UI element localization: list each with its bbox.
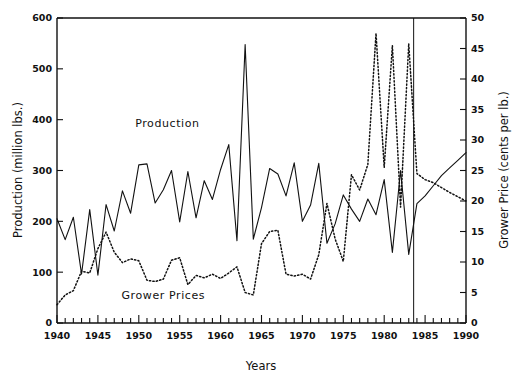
left-tick-label: 200 (32, 216, 52, 227)
x-tick-label: 1950 (126, 330, 153, 341)
right-tick-label: 30 (471, 134, 485, 145)
x-tick-label: 1940 (44, 330, 71, 341)
chart-figure: 0100200300400500600 05101520253035404550… (0, 0, 521, 380)
production-series-label: Production (135, 117, 200, 130)
x-axis-title: Years (245, 359, 276, 373)
x-tick-label: 1975 (330, 330, 356, 341)
x-tick-label: 1945 (85, 330, 111, 341)
x-tick-label: 1970 (289, 330, 316, 341)
x-tick-label: 1985 (412, 330, 438, 341)
right-tick-label: 0 (471, 317, 478, 328)
left-axis-title: Production (million lbs.) (11, 102, 25, 238)
left-tick-label: 100 (32, 267, 52, 278)
left-tick-label: 400 (32, 114, 52, 125)
left-tick-label: 300 (32, 165, 52, 176)
right-tick-label: 10 (471, 256, 485, 267)
right-tick-label: 40 (471, 73, 485, 84)
right-tick-label: 15 (471, 226, 484, 237)
left-tick-label: 0 (45, 317, 52, 328)
x-tick-label: 1965 (248, 330, 274, 341)
x-tick-label: 1980 (371, 330, 398, 341)
right-tick-label: 50 (471, 12, 485, 23)
x-tick-label: 1955 (166, 330, 192, 341)
right-tick-label: 20 (471, 195, 485, 206)
x-tick-label: 1990 (453, 330, 480, 341)
production-grower-price-chart: 0100200300400500600 05101520253035404550… (0, 0, 521, 380)
right-tick-label: 45 (471, 43, 484, 54)
left-tick-label: 500 (32, 63, 52, 74)
x-tick-label: 1960 (207, 330, 234, 341)
left-tick-label: 600 (32, 12, 52, 23)
right-tick-label: 5 (471, 287, 478, 298)
right-axis-title: Grower Price (cents per lb.) (497, 91, 511, 249)
grower-prices-series-label: Grower Prices (121, 289, 205, 302)
right-tick-label: 25 (471, 165, 484, 176)
right-tick-label: 35 (471, 104, 484, 115)
